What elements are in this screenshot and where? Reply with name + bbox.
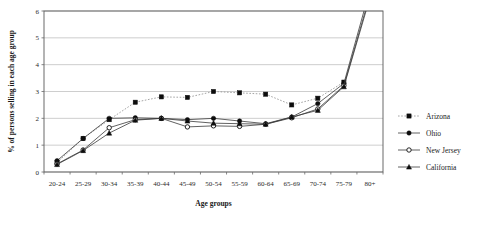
series-line-new-jersey <box>57 0 370 164</box>
series-california <box>55 0 370 167</box>
x-tick-label: 20-24 <box>49 180 66 188</box>
y-tick-label: 1 <box>36 142 40 150</box>
data-point <box>185 125 189 129</box>
data-point <box>107 130 112 135</box>
y-tick-label: 6 <box>36 8 40 16</box>
data-point <box>81 136 85 140</box>
legend-label: California <box>426 163 457 172</box>
data-point <box>237 91 241 95</box>
data-point <box>211 116 215 120</box>
x-axis-title: Age groups <box>195 199 231 208</box>
y-axis-ticks: 0123456 <box>36 8 45 177</box>
y-tick-label: 4 <box>36 61 40 69</box>
x-tick-label: 55-59 <box>231 180 248 188</box>
legend-item-california[interactable]: California <box>398 163 457 172</box>
legend-item-arizona[interactable]: Arizona <box>398 112 451 121</box>
series-ohio <box>55 0 370 163</box>
data-series-group <box>55 0 370 167</box>
x-tick-label: 45-49 <box>179 180 196 188</box>
series-line-california <box>57 0 370 164</box>
x-tick-label: 35-39 <box>127 180 144 188</box>
legend-marker <box>407 148 411 152</box>
legend-item-new-jersey[interactable]: New Jersey <box>398 146 461 155</box>
data-point <box>107 126 111 130</box>
legend-item-ohio[interactable]: Ohio <box>398 129 441 138</box>
legend-label: Arizona <box>426 112 451 121</box>
x-tick-label: 40-44 <box>153 180 170 188</box>
age-group-selling-line-chart: 0123456 20-2425-2930-3435-3940-4445-4950… <box>0 0 481 227</box>
data-point <box>316 96 320 100</box>
x-tick-label: 75-79 <box>336 180 353 188</box>
x-tick-label: 25-29 <box>75 180 92 188</box>
legend-marker <box>407 131 411 135</box>
series-new-jersey <box>55 0 370 166</box>
legend-label: New Jersey <box>426 146 461 155</box>
data-point <box>185 95 189 99</box>
data-point <box>264 92 268 96</box>
data-point <box>133 100 137 104</box>
data-point <box>211 89 215 93</box>
y-tick-label: 5 <box>36 34 40 42</box>
data-point <box>159 95 163 99</box>
legend-marker <box>407 114 411 118</box>
data-point <box>107 116 111 120</box>
data-point <box>316 101 320 105</box>
legend: ArizonaOhioNew JerseyCalifornia <box>398 112 461 172</box>
data-point <box>290 103 294 107</box>
x-tick-label: 65-69 <box>284 180 301 188</box>
x-tick-label: 80+ <box>364 180 375 188</box>
y-tick-label: 3 <box>36 88 40 96</box>
legend-label: Ohio <box>426 129 441 138</box>
y-axis-title: % of persons selling in each age group <box>7 30 16 153</box>
x-tick-label: 50-54 <box>205 180 222 188</box>
y-tick-label: 2 <box>36 115 40 123</box>
x-tick-label: 60-64 <box>257 180 274 188</box>
x-tick-label: 70-74 <box>310 180 327 188</box>
x-tick-label: 30-34 <box>101 180 118 188</box>
x-axis-ticks: 20-2425-2930-3435-3940-4445-4950-5455-59… <box>44 172 383 188</box>
y-tick-label: 0 <box>36 169 40 177</box>
